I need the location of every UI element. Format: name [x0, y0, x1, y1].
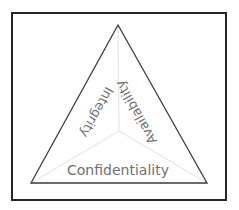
label-confidentiality: Confidentiality [67, 162, 169, 178]
label-integrity: Integrity [77, 84, 117, 140]
divider-top [118, 26, 119, 131]
cia-triad-diagram: Integrity Availability Confidentiality [0, 0, 239, 210]
